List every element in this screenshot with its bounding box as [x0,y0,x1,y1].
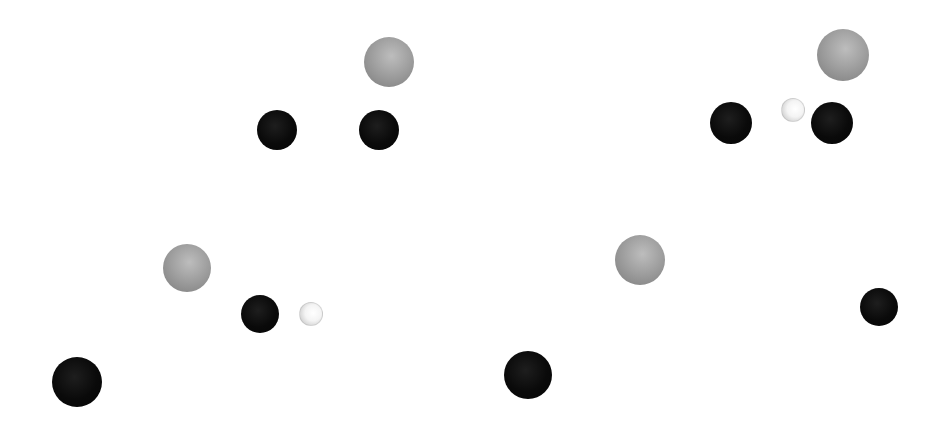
dark-sphere-icon [241,295,279,333]
fragment-top-right [0,0,939,426]
dark-sphere-icon [710,102,752,144]
molecular-diagram-canvas [0,0,939,426]
dark-sphere-icon [811,102,853,144]
dark-sphere-icon [860,288,898,326]
gray-sphere-icon [817,29,869,81]
gray-sphere-icon [364,37,414,87]
fragment-top-left [0,0,939,426]
gray-sphere-icon [615,235,665,285]
light-sphere-icon [299,302,323,326]
light-sphere-icon [781,98,805,122]
dark-sphere-icon [504,351,552,399]
dark-sphere-icon [257,110,297,150]
dark-sphere-icon [52,357,102,407]
gray-sphere-icon [163,244,211,292]
fragment-bottom-left [0,0,939,426]
fragment-bottom-right [0,0,939,426]
dark-sphere-icon [359,110,399,150]
